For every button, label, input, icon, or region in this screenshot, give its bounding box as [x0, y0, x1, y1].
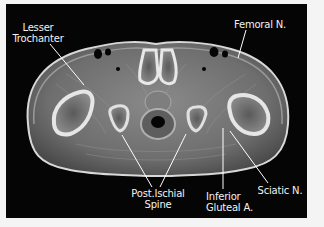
left-femoral-vein: [94, 49, 102, 59]
label-sciatic-n: Sciatic N.: [256, 185, 304, 196]
label-lesser-trochanter: Lesser Trochanter: [12, 22, 64, 44]
label-line-2: Gluteal A.: [206, 202, 256, 213]
left-pubic-bone: [139, 50, 158, 83]
right-femoral-artery: [222, 51, 228, 58]
rectal-lumen: [151, 116, 165, 128]
mri-image-frame: Lesser Trochanter Femoral N. Post.Ischia…: [6, 4, 307, 218]
label-line-1: Sciatic N.: [256, 185, 304, 196]
right-femoral-vein: [210, 47, 219, 57]
label-line-1: Post.Ischial: [128, 188, 188, 199]
label-line-1: Lesser: [12, 22, 64, 33]
label-inferior-gluteal-a: Inferior Gluteal A.: [206, 191, 256, 213]
label-post-ischial-spine: Post.Ischial Spine: [128, 188, 188, 210]
label-line-2: Spine: [128, 199, 188, 210]
label-femoral-n: Femoral N.: [232, 19, 288, 30]
right-pubic-bone: [160, 50, 176, 84]
left-femoral-artery: [105, 49, 111, 56]
label-line-1: Femoral N.: [232, 19, 288, 30]
label-line-1: Inferior: [206, 191, 256, 202]
label-line-2: Trochanter: [12, 33, 64, 44]
